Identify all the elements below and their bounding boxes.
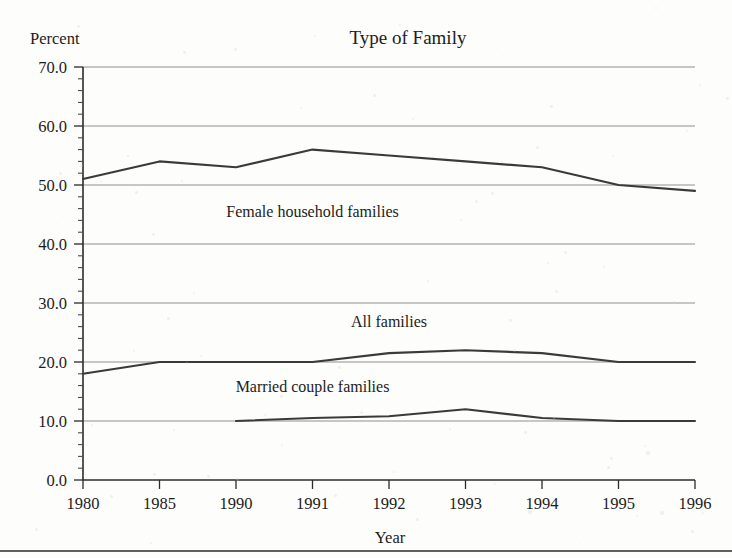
y-axis-title: Percent xyxy=(30,29,80,48)
paper-speck xyxy=(580,543,581,544)
paper-speck xyxy=(236,478,239,481)
x-tick-label-1995: 1995 xyxy=(602,494,635,513)
paper-speck xyxy=(183,51,186,54)
paper-speck xyxy=(186,362,188,364)
paper-speck xyxy=(375,326,378,329)
paper-speck xyxy=(609,81,610,82)
y-tick-label-30: 30.0 xyxy=(38,294,67,313)
y-tick-label-20: 20.0 xyxy=(38,353,67,372)
series-label-2: Married couple families xyxy=(236,378,390,396)
x-tick-label-1993: 1993 xyxy=(449,494,482,513)
x-tick-label-1996: 1996 xyxy=(679,494,712,513)
paper-speck xyxy=(543,505,547,509)
y-axis-tick-labels: 0.010.020.030.040.050.060.070.0 xyxy=(38,58,67,490)
paper-speck xyxy=(660,511,664,515)
x-axis-title: Year xyxy=(375,528,406,547)
paper-speck xyxy=(300,107,302,109)
paper-speck xyxy=(547,262,549,264)
x-tick-label-1990: 1990 xyxy=(220,494,253,513)
paper-speck xyxy=(509,319,512,322)
paper-speck xyxy=(524,431,527,434)
paper-speck xyxy=(699,84,701,86)
paper-speck xyxy=(110,495,113,498)
series-line-2 xyxy=(236,409,695,421)
paper-speck xyxy=(449,428,451,430)
paper-speck xyxy=(607,466,610,469)
paper-speck xyxy=(646,451,650,455)
chart-figure: 0.010.020.030.040.050.060.070.0 19801985… xyxy=(0,0,732,558)
paper-speck xyxy=(528,510,532,514)
paper-speck xyxy=(193,30,194,31)
paper-speck xyxy=(91,424,93,426)
series-label-0: Female household families xyxy=(226,203,398,220)
paper-speck xyxy=(603,266,605,268)
y-tick-label-10: 10.0 xyxy=(38,412,67,431)
paper-speck xyxy=(555,290,558,293)
paper-speck xyxy=(264,414,266,416)
paper-speck xyxy=(496,49,497,50)
paper-speck xyxy=(686,130,688,132)
paper-speck xyxy=(267,216,270,219)
paper-speck xyxy=(460,219,462,221)
paper-speck xyxy=(309,461,310,462)
paper-speck xyxy=(150,542,152,544)
paper-speck xyxy=(173,429,175,431)
series-annotations: Female household familiesAll familiesMar… xyxy=(226,203,427,395)
axes xyxy=(83,67,695,480)
x-tick-label-1980: 1980 xyxy=(67,494,100,513)
paper-speck xyxy=(416,518,419,521)
paper-speck xyxy=(373,94,376,97)
gridlines xyxy=(83,67,695,421)
paper-speck xyxy=(57,223,58,224)
y-tick-label-40: 40.0 xyxy=(38,235,67,254)
paper-speck xyxy=(338,366,341,369)
x-tick-label-1991: 1991 xyxy=(296,494,329,513)
paper-speck xyxy=(35,528,38,531)
paper-speck xyxy=(135,191,138,194)
y-tick-label-70: 70.0 xyxy=(38,58,67,77)
paper-speck xyxy=(491,192,494,195)
y-tick-label-60: 60.0 xyxy=(38,117,67,136)
paper-speck xyxy=(673,301,676,304)
paper-speck xyxy=(281,444,283,446)
series-label-1: All families xyxy=(351,313,427,330)
paper-speck xyxy=(399,24,401,26)
paper-speck xyxy=(207,475,210,478)
paper-speck xyxy=(234,48,237,51)
paper-speck xyxy=(691,530,694,533)
y-tick-label-0: 0.0 xyxy=(46,471,67,490)
paper-speck xyxy=(127,155,129,157)
paper-speck xyxy=(726,97,729,100)
paper-speck xyxy=(167,317,170,320)
paper-speck xyxy=(80,164,83,167)
paper-speck xyxy=(153,473,156,476)
x-tick-label-1985: 1985 xyxy=(143,494,176,513)
x-axis-tick-labels: 198019851990199119921993199419951996 xyxy=(67,494,712,513)
x-tick-label-1992: 1992 xyxy=(373,494,406,513)
y-tick-label-50: 50.0 xyxy=(38,176,67,195)
paper-speck xyxy=(322,415,323,416)
paper-speck xyxy=(550,105,553,108)
type-of-family-line-chart: 0.010.020.030.040.050.060.070.0 19801985… xyxy=(0,0,732,558)
chart-title: Type of Family xyxy=(350,27,467,48)
paper-speck xyxy=(181,180,183,182)
tick-marks xyxy=(74,67,695,489)
